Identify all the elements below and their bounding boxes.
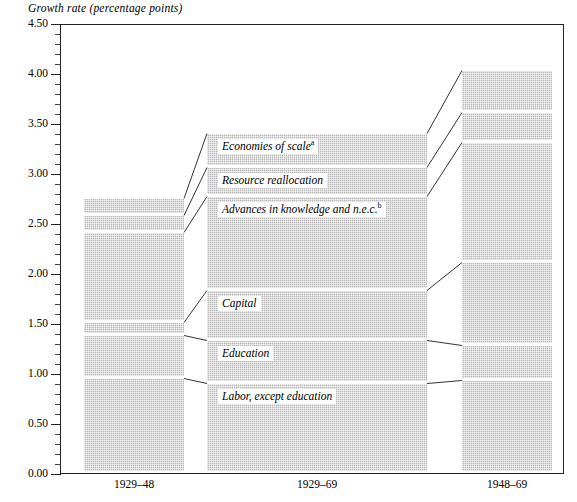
y-axis-minor-tick xyxy=(55,384,61,385)
x-axis-tick-label: 1929–48 xyxy=(84,478,184,490)
bar-segment xyxy=(84,323,184,333)
bar-segment xyxy=(462,381,552,471)
y-axis-tick-label: 2.50 xyxy=(0,218,48,230)
y-axis-minor-tick xyxy=(55,234,61,235)
y-axis-minor-tick xyxy=(55,34,61,35)
y-axis-tick-label: 1.50 xyxy=(0,318,48,330)
y-axis-minor-tick xyxy=(55,344,61,345)
y-axis-minor-tick xyxy=(55,134,61,135)
y-axis-minor-tick xyxy=(55,364,61,365)
y-axis-minor-tick xyxy=(55,314,61,315)
y-axis-minor-tick xyxy=(55,464,61,465)
y-axis-major-tick xyxy=(51,24,61,25)
bar-1948-69 xyxy=(462,0,552,502)
y-axis-tick-label-text: 4.00 xyxy=(4,68,48,80)
y-axis-tick-label-text: 2.00 xyxy=(4,268,48,280)
y-axis-minor-tick xyxy=(55,244,61,245)
y-axis-minor-tick xyxy=(55,214,61,215)
y-axis-tick-label-text: 3.50 xyxy=(4,118,48,130)
y-axis-minor-tick xyxy=(55,434,61,435)
segment-label-plate: Resource reallocation xyxy=(218,173,327,188)
y-axis-minor-tick xyxy=(55,144,61,145)
y-axis-minor-tick xyxy=(55,414,61,415)
segment-label-text: Advances in knowledge and n.e.c. xyxy=(222,203,378,215)
bar-segment xyxy=(84,216,184,230)
y-axis-tick-label-text: 3.00 xyxy=(4,168,48,180)
y-axis-tick-label: 3.50 xyxy=(0,118,48,130)
y-axis-minor-tick xyxy=(55,84,61,85)
y-axis-minor-tick xyxy=(55,154,61,155)
chart-figure: Growth rate (percentage points) 4.504.00… xyxy=(0,0,577,502)
y-axis-minor-tick xyxy=(55,454,61,455)
y-axis-tick-label: 4.50 xyxy=(0,18,48,30)
x-axis-tick-label: 1929–69 xyxy=(207,478,427,490)
bar-segment xyxy=(84,336,184,376)
y-axis-major-tick xyxy=(51,174,61,175)
y-axis-tick-label: 4.00 xyxy=(0,68,48,80)
bar-segment xyxy=(84,233,184,320)
segment-label-plate: Education xyxy=(218,346,273,361)
y-axis-minor-tick xyxy=(55,64,61,65)
y-axis-minor-tick xyxy=(55,194,61,195)
bar-segment xyxy=(462,346,552,378)
y-axis-major-tick xyxy=(51,324,61,325)
y-axis-tick-label: 0.00 xyxy=(0,468,48,480)
bar-1929-69 xyxy=(207,0,427,502)
y-axis-major-tick xyxy=(51,224,61,225)
segment-label-text: Economies of scale xyxy=(222,140,311,152)
y-axis-minor-tick xyxy=(55,404,61,405)
segment-label-plate: Economies of scalea xyxy=(218,139,318,154)
y-axis-tick-label-text: 4.50 xyxy=(4,18,48,30)
bar-segment xyxy=(462,113,552,140)
segment-label-text: Labor, except education xyxy=(222,390,332,402)
y-axis-major-tick xyxy=(51,124,61,125)
y-axis-minor-tick xyxy=(55,114,61,115)
y-axis-minor-tick xyxy=(55,394,61,395)
y-axis-tick-label: 1.00 xyxy=(0,368,48,380)
y-axis-minor-tick xyxy=(55,284,61,285)
y-axis-minor-tick xyxy=(55,354,61,355)
segment-label-plate: Advances in knowledge and n.e.c.b xyxy=(218,202,386,217)
y-axis-minor-tick xyxy=(55,184,61,185)
y-axis-minor-tick xyxy=(55,204,61,205)
y-axis-tick-label-text: 1.00 xyxy=(4,368,48,380)
y-axis-major-tick xyxy=(51,74,61,75)
y-axis-minor-tick xyxy=(55,54,61,55)
y-axis-minor-tick xyxy=(55,304,61,305)
segment-label-footnote-marker: b xyxy=(378,201,382,210)
y-axis-minor-tick xyxy=(55,294,61,295)
y-axis-major-tick xyxy=(51,474,61,475)
bar-segment xyxy=(462,143,552,260)
bar-segment xyxy=(84,379,184,471)
y-axis-tick-label-text: 0.00 xyxy=(4,468,48,480)
y-axis-major-tick xyxy=(51,374,61,375)
segment-label-text: Capital xyxy=(222,297,257,309)
bar-segment xyxy=(462,71,552,110)
x-axis-tick-label: 1948–69 xyxy=(462,478,552,490)
y-axis-minor-tick xyxy=(55,94,61,95)
y-axis-tick-label-text: 2.50 xyxy=(4,218,48,230)
y-axis-minor-tick xyxy=(55,334,61,335)
segment-label-text: Resource reallocation xyxy=(222,174,323,186)
bar-1929-48 xyxy=(84,0,184,502)
y-axis-minor-tick xyxy=(55,444,61,445)
y-axis-minor-tick xyxy=(55,164,61,165)
y-axis-major-tick xyxy=(51,424,61,425)
y-axis-tick-label: 0.50 xyxy=(0,418,48,430)
bar-segment xyxy=(462,263,552,343)
y-axis-major-tick xyxy=(51,274,61,275)
segment-label-footnote-marker: a xyxy=(311,138,315,147)
y-axis-tick-label-text: 0.50 xyxy=(4,418,48,430)
segment-label-plate: Labor, except education xyxy=(218,389,336,404)
y-axis-minor-tick xyxy=(55,104,61,105)
bar-segment xyxy=(84,199,184,213)
y-axis-minor-tick xyxy=(55,254,61,255)
y-axis-tick-label-text: 1.50 xyxy=(4,318,48,330)
segment-label-plate: Capital xyxy=(218,296,261,311)
y-axis-tick-label: 2.00 xyxy=(0,268,48,280)
y-axis-minor-tick xyxy=(55,264,61,265)
y-axis-minor-tick xyxy=(55,44,61,45)
segment-label-text: Education xyxy=(222,347,269,359)
y-axis-tick-label: 3.00 xyxy=(0,168,48,180)
